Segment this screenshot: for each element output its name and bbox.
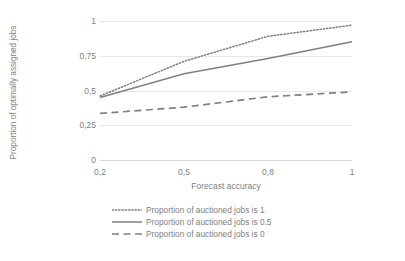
x-axis-title: Forecast accuracy — [100, 181, 352, 191]
series-line — [100, 92, 352, 114]
legend-line-swatch-dotted — [112, 205, 142, 215]
series-line — [100, 42, 352, 98]
y-axis-tick-label: 0 — [50, 156, 96, 165]
x-axis-tick-label: 0,5 — [154, 168, 214, 177]
legend-item-label: Proportion of auctioned jobs is 1 — [146, 205, 265, 215]
x-axis-tick-label: 1 — [322, 168, 382, 177]
legend-item-label: Proportion of auctioned jobs is 0.5 — [146, 217, 271, 227]
legend-item-label: Proportion of auctioned jobs is 0 — [146, 229, 265, 239]
y-axis-tick-label: 0,25 — [50, 121, 96, 130]
line-chart: 10,750,50,250 Proportion of optimally as… — [0, 0, 405, 261]
x-axis-tick-label: 0,2 — [70, 168, 130, 177]
series-line — [100, 25, 352, 96]
x-axis-tick-label: 0,8 — [238, 168, 298, 177]
x-axis-line — [100, 160, 352, 161]
series-lines — [100, 21, 352, 160]
legend-line-swatch-solid — [112, 217, 142, 227]
legend-item[interactable]: Proportion of auctioned jobs is 0.5 — [0, 216, 405, 228]
y-axis-tick-label: 0,5 — [50, 87, 96, 96]
x-axis-tick-labels: 0,20,50,81 — [100, 168, 352, 182]
y-axis-tick-label: 1 — [50, 17, 96, 26]
legend-line-swatch-dashed — [112, 229, 142, 239]
y-axis-title: Proportion of optimally assigned jobs — [9, 18, 18, 168]
legend-item[interactable]: Proportion of auctioned jobs is 0 — [0, 228, 405, 240]
legend-item[interactable]: Proportion of auctioned jobs is 1 — [0, 204, 405, 216]
plot-area — [100, 21, 352, 160]
chart-legend: Proportion of auctioned jobs is 1Proport… — [0, 204, 405, 240]
y-axis-tick-label: 0,75 — [50, 52, 96, 61]
